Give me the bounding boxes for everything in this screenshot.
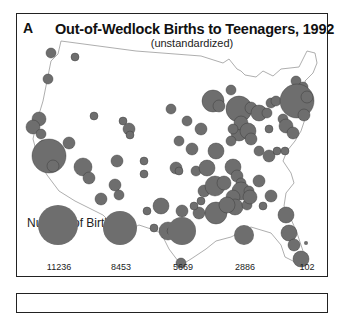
map-panel-b — [16, 293, 328, 313]
legend-label-4: 102 — [287, 262, 327, 272]
legend-label-3: 2886 — [225, 262, 265, 272]
map-panel-a: A Out-of-Wedlock Births to Teenagers, 19… — [16, 13, 328, 277]
legend-circle-4 — [304, 241, 308, 245]
legend-circle-0 — [38, 205, 78, 245]
legend-circle-1 — [103, 211, 137, 245]
legend-circles — [17, 14, 329, 278]
legend-label-0: 11236 — [39, 262, 79, 272]
legend-label-1: 8453 — [101, 262, 141, 272]
legend-label-2: 5669 — [163, 262, 203, 272]
legend-circle-3 — [234, 225, 254, 245]
legend-circle-2 — [168, 217, 196, 245]
